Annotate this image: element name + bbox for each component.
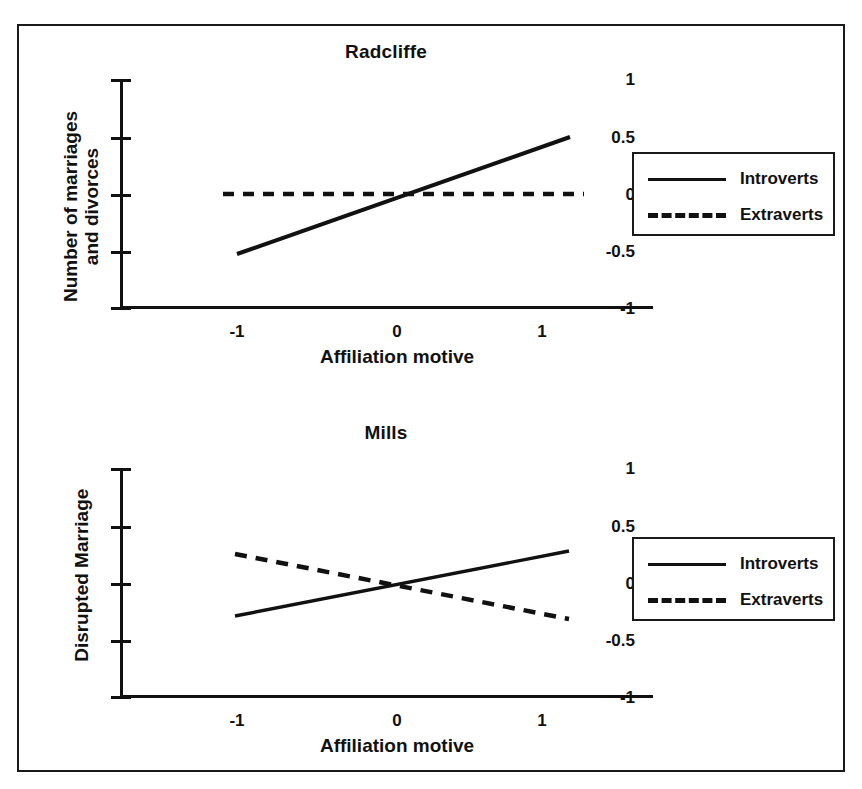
y-axis-title-mills: Disrupted Marriage xyxy=(72,472,93,678)
x-tick-label--1: -1 xyxy=(229,322,244,342)
x-axis-title-mills: Affiliation motive xyxy=(320,735,474,757)
legend-swatch-solid-icon xyxy=(648,563,726,566)
legend-radcliffe: Introverts Extraverts xyxy=(632,152,835,236)
series-line-introverts xyxy=(235,551,569,616)
legend-label-extraverts: Extraverts xyxy=(740,590,823,610)
series-lines-radcliffe xyxy=(120,26,654,400)
legend-item-extraverts[interactable]: Extraverts xyxy=(634,198,833,232)
legend-swatch-solid-icon xyxy=(648,178,726,181)
legend-item-introverts[interactable]: Introverts xyxy=(634,162,833,196)
legend-swatch-dashed-icon xyxy=(648,213,726,218)
x-tick-label-1: 1 xyxy=(537,322,546,342)
series-lines-mills xyxy=(120,400,654,774)
legend-item-extraverts[interactable]: Extraverts xyxy=(634,583,833,617)
series-line-extraverts xyxy=(235,554,569,619)
legend-label-introverts: Introverts xyxy=(740,169,818,189)
figure-frame: Radcliffe Number of marriages and divorc… xyxy=(17,24,845,772)
plot-area-mills: 1 0.5 0 -0.5 -1 -1 0 1 Affiliation motiv… xyxy=(120,400,654,774)
legend-label-extraverts: Extraverts xyxy=(740,205,823,225)
chart-panel-mills: Mills Disrupted Marriage 1 0.5 0 -0.5 -1… xyxy=(19,400,843,774)
x-tick-label-0: 0 xyxy=(392,322,401,342)
legend-label-introverts: Introverts xyxy=(740,554,818,574)
legend-swatch-dashed-icon xyxy=(648,598,726,603)
x-tick-label--1: -1 xyxy=(229,711,244,731)
legend-item-introverts[interactable]: Introverts xyxy=(634,547,833,581)
x-tick-label-1: 1 xyxy=(537,711,546,731)
x-axis-title-radcliffe: Affiliation motive xyxy=(320,346,474,368)
plot-area-radcliffe: 1 0.5 0 -0.5 -1 -1 0 1 Affiliation motiv… xyxy=(120,26,654,400)
x-tick-label-0: 0 xyxy=(392,711,401,731)
y-axis-title-radcliffe: Number of marriages and divorces xyxy=(61,92,102,322)
chart-panel-radcliffe: Radcliffe Number of marriages and divorc… xyxy=(19,26,843,400)
legend-mills: Introverts Extraverts xyxy=(632,537,835,621)
